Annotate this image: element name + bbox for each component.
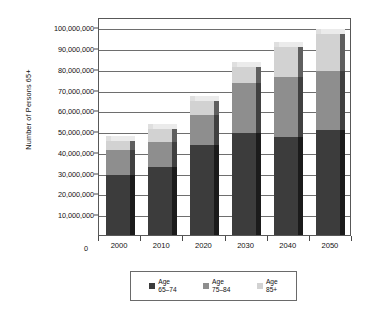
bar-segment-side bbox=[130, 175, 135, 235]
bar-segment bbox=[274, 137, 298, 235]
y-axis-tick-label: 60,000,000 bbox=[22, 107, 94, 116]
bar-top-face bbox=[321, 29, 345, 34]
bar-segment bbox=[148, 142, 172, 167]
y-axis-tick-label: 70,000,000 bbox=[22, 86, 94, 95]
bar-segment-side bbox=[256, 67, 261, 84]
x-axis-tick-mark bbox=[225, 236, 226, 241]
legend-label: Age75–84 bbox=[212, 278, 230, 293]
y-axis-tick-label: 20,000,000 bbox=[22, 190, 94, 199]
y-axis-tick-mark bbox=[94, 152, 98, 153]
bar-segment-side bbox=[172, 167, 177, 236]
y-axis-tick-mark bbox=[94, 173, 98, 174]
bar-segment-face bbox=[148, 142, 172, 167]
bar-segment bbox=[190, 115, 214, 145]
x-axis-tick-mark bbox=[309, 236, 310, 241]
bar-top-face bbox=[279, 42, 303, 47]
bar-group bbox=[106, 17, 130, 235]
legend-label: Age85+ bbox=[266, 278, 278, 293]
stacked-bar-chart: Number of Persons 65+ 10,000,00020,000,0… bbox=[0, 0, 368, 323]
bar-segment bbox=[232, 133, 256, 235]
bar-top-cap bbox=[232, 62, 261, 67]
bar-segment bbox=[148, 129, 172, 141]
legend-label-line2: 65–74 bbox=[158, 286, 176, 294]
legend-item: Age75–84 bbox=[203, 278, 230, 293]
bar-segment-face bbox=[106, 175, 130, 235]
x-axis-tick-mark bbox=[98, 236, 99, 241]
bar-top-bevel bbox=[190, 96, 195, 101]
bar-segment-side bbox=[256, 133, 261, 235]
bar-segment bbox=[316, 130, 340, 235]
legend-label-line1: Age bbox=[158, 278, 176, 286]
bar-top-cap bbox=[106, 136, 135, 141]
bar-segment-side bbox=[130, 150, 135, 175]
x-axis-tick-label: 2030 bbox=[237, 241, 254, 250]
bar-segment-side bbox=[256, 83, 261, 133]
legend-swatch bbox=[257, 283, 263, 289]
y-axis-tick-label: 90,000,000 bbox=[22, 45, 94, 54]
x-axis-tick-label: 2010 bbox=[153, 241, 170, 250]
legend-item: Age65–74 bbox=[149, 278, 176, 293]
bar-segment bbox=[190, 101, 214, 114]
y-axis-tick-mark bbox=[94, 28, 98, 29]
bar-segment-face bbox=[106, 141, 130, 150]
bar-segment-face bbox=[148, 129, 172, 141]
bar-segment-side bbox=[214, 115, 219, 145]
y-axis-tick-label: 30,000,000 bbox=[22, 169, 94, 178]
bar-top-face bbox=[111, 136, 135, 141]
legend-label-line2: 85+ bbox=[266, 286, 278, 294]
bar-segment bbox=[106, 175, 130, 235]
axis-origin-label: 0 bbox=[84, 244, 88, 253]
bar-segment-side bbox=[172, 129, 177, 141]
y-axis-tick-mark bbox=[94, 90, 98, 91]
bar-segment-side bbox=[340, 34, 345, 71]
bar-segment-side bbox=[340, 71, 345, 130]
bar-segment-face bbox=[316, 130, 340, 235]
y-axis-tick-mark bbox=[94, 69, 98, 70]
x-axis-tick-mark bbox=[267, 236, 268, 241]
bar-segment-face bbox=[274, 137, 298, 235]
bar-segment bbox=[232, 83, 256, 133]
y-axis-tick-mark bbox=[94, 215, 98, 216]
bar-top-cap bbox=[190, 96, 219, 101]
bar-top-bevel bbox=[232, 62, 237, 67]
bar-segment-side bbox=[298, 137, 303, 235]
bar-top-bevel bbox=[316, 29, 321, 34]
x-axis-tick-label: 2050 bbox=[321, 241, 338, 250]
y-axis-tick-label: 40,000,000 bbox=[22, 148, 94, 157]
x-axis-tick-label: 2000 bbox=[111, 241, 128, 250]
bar-group bbox=[148, 17, 172, 235]
legend-swatch bbox=[149, 283, 155, 289]
x-axis-tick-mark bbox=[140, 236, 141, 241]
legend-label-line2: 75–84 bbox=[212, 286, 230, 294]
bar-segment-face bbox=[232, 133, 256, 235]
bar-top-bevel bbox=[148, 124, 153, 129]
bar-top-cap bbox=[148, 124, 177, 129]
bar-top-bevel bbox=[106, 136, 111, 141]
bar-segment-face bbox=[106, 150, 130, 175]
bar-top-face bbox=[237, 62, 261, 67]
bar-series-layer bbox=[99, 19, 350, 235]
bar-segment-side bbox=[298, 47, 303, 77]
bar-top-bevel bbox=[274, 42, 279, 47]
bar-top-cap bbox=[274, 42, 303, 47]
y-axis-tick-label: 10,000,000 bbox=[22, 211, 94, 220]
bar-segment-side bbox=[298, 77, 303, 137]
bar-segment-face bbox=[274, 47, 298, 77]
y-axis-tick-label: 50,000,000 bbox=[22, 128, 94, 137]
x-axis-tick-label: 2040 bbox=[279, 241, 296, 250]
legend-item: Age85+ bbox=[257, 278, 278, 293]
bar-segment-side bbox=[172, 142, 177, 167]
bar-segment-face bbox=[316, 71, 340, 130]
x-axis-tick-mark bbox=[182, 236, 183, 241]
bar-segment bbox=[316, 71, 340, 130]
bar-segment-face bbox=[190, 145, 214, 235]
y-axis-tick-label: 80,000,000 bbox=[22, 65, 94, 74]
legend-label: Age65–74 bbox=[158, 278, 176, 293]
bar-segment bbox=[148, 167, 172, 236]
bar-group bbox=[316, 17, 340, 235]
plot-area bbox=[98, 18, 351, 236]
bar-segment bbox=[316, 34, 340, 71]
y-axis-tick-mark bbox=[94, 49, 98, 50]
y-axis-tick-label: 100,000,000 bbox=[22, 24, 94, 33]
bar-segment-face bbox=[274, 77, 298, 137]
